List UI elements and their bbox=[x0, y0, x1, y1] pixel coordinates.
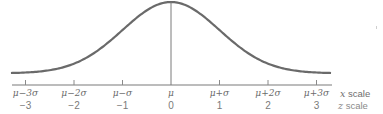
scan-speck bbox=[376, 26, 377, 29]
z-tick-label: −2 bbox=[68, 100, 79, 111]
z-tick-label: 1 bbox=[217, 100, 223, 111]
z-tick-label: 3 bbox=[314, 100, 320, 111]
z-tick-label: 0 bbox=[168, 100, 174, 111]
z-tick-label: −1 bbox=[117, 100, 128, 111]
x-tick-label: μ−3σ bbox=[13, 88, 38, 98]
x-tick-label: μ−2σ bbox=[61, 88, 86, 98]
x-tick-label: μ+2σ bbox=[255, 88, 280, 98]
z-tick-label: 2 bbox=[265, 100, 271, 111]
x-tick-label: μ+σ bbox=[210, 88, 230, 98]
x-scale-label: x scale bbox=[340, 88, 370, 99]
x-tick-label: μ−σ bbox=[113, 88, 133, 98]
z-scale-label: z scale bbox=[338, 100, 368, 111]
x-tick-label: μ bbox=[168, 88, 174, 98]
z-tick-label: −3 bbox=[20, 100, 31, 111]
x-tick-label: μ+3σ bbox=[304, 88, 329, 98]
